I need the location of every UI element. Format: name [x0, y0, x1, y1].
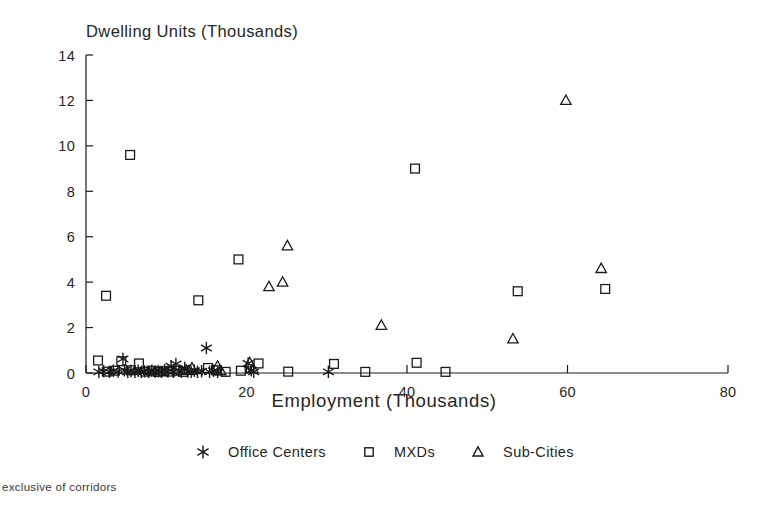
scatter-plot-figure: Dwelling Units (Thousands) 0246810121402… — [0, 0, 768, 509]
data-point-asterisk — [201, 342, 212, 354]
data-point-square — [234, 255, 243, 264]
square-icon — [360, 443, 378, 461]
data-point-triangle — [508, 334, 518, 343]
data-point-triangle — [376, 320, 386, 329]
data-point-triangle — [561, 95, 571, 104]
data-point-square — [102, 291, 111, 300]
y-tick-label: 2 — [67, 320, 75, 336]
y-tick-label: 10 — [58, 138, 75, 154]
legend-item-office-centers: Office Centers — [194, 443, 326, 461]
data-point-square — [601, 285, 610, 294]
data-point-square — [284, 367, 293, 376]
data-point-square — [330, 360, 339, 369]
data-point-square — [513, 287, 522, 296]
data-point-square — [126, 151, 135, 160]
data-point-triangle — [282, 240, 292, 249]
data-point-square — [412, 358, 421, 367]
data-point-square — [361, 367, 370, 376]
y-tick-label: 0 — [67, 366, 75, 382]
series-mxds — [94, 151, 610, 377]
legend-label-office-centers: Office Centers — [228, 444, 326, 460]
data-point-triangle — [277, 277, 287, 286]
data-point-asterisk — [323, 366, 334, 378]
triangle-icon — [469, 443, 487, 461]
data-point-square — [411, 164, 420, 173]
series-sub-cities — [181, 95, 606, 375]
plot-area: 02468101214020406080 — [0, 0, 768, 509]
footnote-text: exclusive of corridors — [2, 481, 117, 493]
y-tick-label: 4 — [67, 275, 75, 291]
legend-item-mxds: MXDs — [360, 443, 435, 461]
data-point-square — [441, 367, 450, 376]
y-tick-label: 6 — [67, 229, 75, 245]
data-point-triangle — [596, 263, 606, 272]
x-axis-label: Employment (Thousands) — [0, 390, 768, 412]
legend-item-sub-cities: Sub-Cities — [469, 443, 574, 461]
y-tick-label: 14 — [58, 48, 75, 64]
data-point-triangle — [264, 281, 274, 290]
data-point-square — [194, 296, 203, 305]
data-point-asterisk — [118, 353, 129, 365]
chart-legend: Office Centers MXDs Sub-Cities — [0, 443, 768, 461]
legend-label-sub-cities: Sub-Cities — [503, 444, 574, 460]
data-point-square — [236, 366, 245, 375]
y-tick-label: 8 — [67, 184, 75, 200]
legend-label-mxds: MXDs — [394, 444, 435, 460]
data-point-square — [94, 356, 103, 365]
asterisk-icon — [194, 443, 212, 461]
y-tick-label: 12 — [58, 93, 75, 109]
